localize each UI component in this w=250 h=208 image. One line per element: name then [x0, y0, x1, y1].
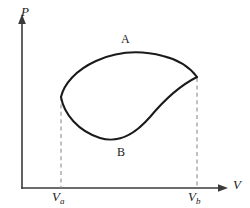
tick-label-v-b: Vb — [188, 190, 200, 203]
pv-diagram-figure: P V Va Vb A B — [0, 0, 250, 208]
tick-label-v-a-base: V — [52, 189, 60, 204]
lower-branch-curve-b — [61, 77, 197, 140]
volume-axis-arrowhead — [218, 184, 228, 192]
tick-label-v-b-subscript: b — [196, 196, 201, 206]
tick-label-v-b-base: V — [188, 189, 196, 204]
curve-point-label-b: B — [117, 146, 125, 158]
pressure-axis-label: P — [21, 5, 29, 18]
volume-axis-label: V — [233, 178, 241, 191]
curve-point-label-a: A — [121, 33, 130, 45]
tick-label-v-a: Va — [52, 190, 64, 203]
tick-label-v-a-subscript: a — [60, 196, 65, 206]
